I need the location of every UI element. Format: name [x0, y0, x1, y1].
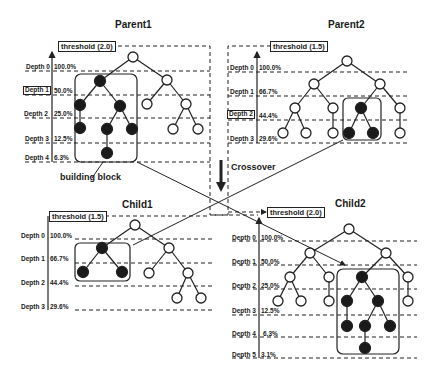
parent1-depth-0-pct: 100.0% [54, 64, 76, 71]
parent1-depth-2-pct: 25.0% [54, 111, 72, 118]
child2-depth-3-label: Depth 3 [232, 308, 256, 315]
child1-depth-1-label: Depth 1 [21, 256, 45, 263]
parent1-depth-1-label: Depth 1 [23, 86, 51, 95]
child2-depth-4-pct: 6.3% [263, 331, 278, 338]
child2-depth-2-label: Depth 2 [232, 283, 256, 290]
parent1-depth-1-pct: 50.0% [54, 88, 72, 95]
child1-depth-2-label: Depth 2 [21, 280, 45, 287]
parent2-title: Parent2 [328, 20, 365, 30]
parent2-depth-1-label: Depth 1 [230, 89, 254, 96]
child2-depth-2-pct: 25.0% [261, 283, 279, 290]
parent1-depth-lines [25, 71, 210, 162]
child2-depth-5-pct: 3.1% [261, 352, 276, 359]
child2-building-block-box [337, 269, 399, 354]
child1-depth-0-pct: 100.0% [50, 233, 72, 240]
parent1-title: Parent1 [115, 20, 152, 30]
child2-depth-5-label: Depth 5 [232, 352, 256, 359]
crossover-label: Crossover [231, 163, 276, 172]
child2-depth-1-label: Depth 1 [232, 259, 256, 266]
child2-depth-0-label: Depth 0 [232, 235, 256, 242]
child1-tree-edges [83, 225, 201, 298]
parent2-depth-2-pct: 44.4% [259, 113, 277, 120]
parent2-threshold-label: threshold (1.5) [270, 41, 328, 52]
parent1-depth-4-label: Depth 4 [25, 155, 49, 162]
parent2-depth-0-label: Depth 0 [230, 65, 254, 72]
parent1-depth-2-label: Depth 2 [24, 111, 48, 118]
parent2-depth-1-pct: 66.7% [259, 89, 277, 96]
parent1-depth-4-pct: 6.3% [54, 155, 69, 162]
child1-depth-3-label: Depth 3 [21, 304, 45, 311]
parent1-depth-3-label: Depth 3 [25, 136, 49, 143]
child1-threshold-label: threshold (1.5) [49, 211, 107, 222]
parent1-threshold-label: threshold (2.0) [58, 41, 116, 52]
crossover-diagram [0, 0, 441, 379]
parent2-depth-3-pct: 29.6% [259, 136, 277, 143]
node-filled [95, 76, 106, 87]
child2-depth-1-pct: 50.0% [261, 259, 279, 266]
parent2-depth-3-label: Depth 3 [230, 136, 254, 143]
child1-depth-0-label: Depth 0 [21, 233, 45, 240]
child2-depth-3-pct: 12.5% [261, 308, 279, 315]
child1-depth-2-pct: 44.4% [50, 280, 68, 287]
parent2-depth-2-label: Depth 2 [227, 110, 255, 119]
parent1-depth-0-label: Depth 0 [26, 64, 50, 71]
child2-title: Child2 [335, 199, 366, 209]
parent1-depth-3-pct: 12.5% [54, 136, 72, 143]
child1-title: Child1 [122, 200, 153, 210]
child2-threshold-label: threshold (2.0) [267, 207, 325, 218]
building-block-label: building block [60, 173, 121, 182]
child1-depth-3-pct: 29.6% [50, 304, 68, 311]
child2-depth-4-label: Depth 4 [232, 331, 256, 338]
child2-depth-0-pct: 100.0% [261, 235, 283, 242]
parent2-depth-0-pct: 100.0% [259, 65, 281, 72]
node-empty [128, 52, 138, 62]
child1-depth-1-pct: 66.7% [50, 256, 68, 263]
